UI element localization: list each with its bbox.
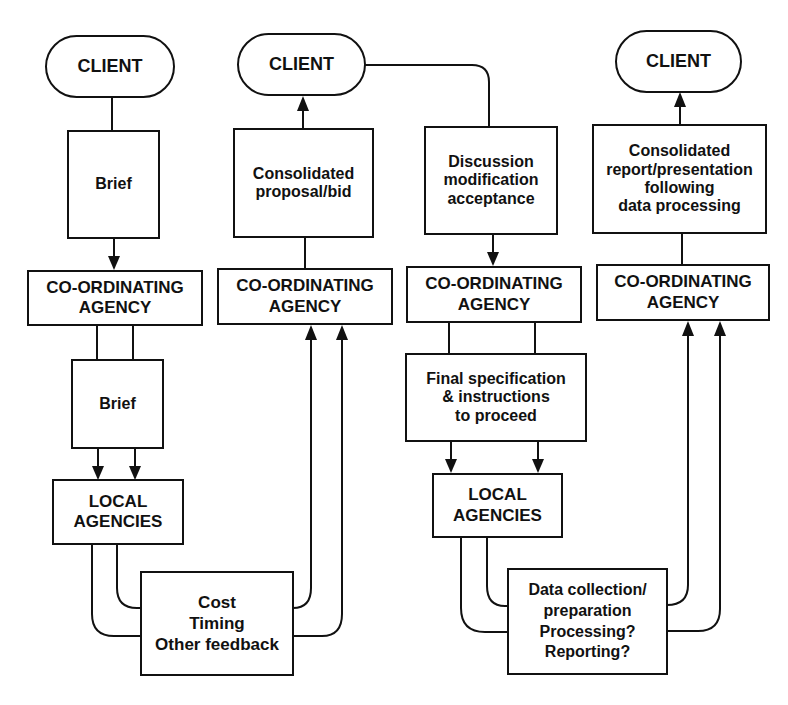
spec-label-line1: Final specification [426,370,566,388]
data-label-line1: Data collection/ [528,580,646,601]
report-label-line2: report/presentation [606,161,753,179]
coordinating-agency-4: CO-ORDINATING AGENCY [596,264,770,321]
brief-box-1: Brief [67,130,160,239]
report-label-line3: following [644,179,714,197]
client-label: CLIENT [646,51,711,72]
report-label-line1: Consolidated [629,142,730,160]
arrow-down-icon [108,256,120,270]
discussion-label-line3: acceptance [447,190,534,208]
report-label-line4: data processing [618,197,741,215]
feedback-box: Cost Timing Other feedback [140,571,294,676]
local-label-line1: LOCAL [89,492,148,512]
arrow-up-icon [714,321,726,336]
coordinator-label-line2: AGENCY [647,293,720,313]
local-label-line2: AGENCIES [74,512,163,532]
arrow-up-icon [674,92,686,107]
coordinator-label-line1: CO-ORDINATING [614,272,752,292]
feedback-timing: Timing [189,613,244,634]
data-collection-box: Data collection/ preparation Processing?… [507,568,668,675]
coordinating-agency-2: CO-ORDINATING AGENCY [217,268,393,325]
coordinating-agency-3: CO-ORDINATING AGENCY [406,266,582,323]
data-label-line2: preparation [543,601,631,622]
arrow-up-icon [682,321,694,336]
spec-label-line2: & instructions [442,388,550,406]
coordinator-label-line1: CO-ORDINATING [46,278,184,298]
data-label-line3: Processing? [539,622,635,643]
discussion-label-line1: Discussion [448,153,533,171]
data-label-line4: Reporting? [545,642,630,663]
discussion-label-line2: modification [443,171,538,189]
brief-box-2: Brief [71,359,164,449]
local-agencies-1: LOCAL AGENCIES [52,479,184,545]
arrow-down-icon [129,466,141,480]
arrow-up-icon [297,96,309,111]
local-agencies-2: LOCAL AGENCIES [432,473,563,538]
connector-lines [0,0,788,705]
client-label: CLIENT [269,54,334,75]
feedback-cost: Cost [198,592,236,613]
coordinator-label-line1: CO-ORDINATING [425,274,563,294]
arrow-down-icon [532,459,544,473]
client-label: CLIENT [78,56,143,77]
client-node-2: CLIENT [237,33,366,96]
local-label-line2: AGENCIES [453,506,542,526]
arrow-down-icon [445,459,457,473]
brief-label: Brief [95,175,131,193]
coordinating-agency-1: CO-ORDINATING AGENCY [27,270,203,326]
client-node-3: CLIENT [615,30,742,93]
client-node-1: CLIENT [45,35,175,98]
proposal-label-line2: proposal/bid [256,183,352,201]
consolidated-report-box: Consolidated report/presentation followi… [592,124,767,234]
arrow-up-icon [336,325,348,340]
feedback-other: Other feedback [155,634,279,655]
coordinator-label-line2: AGENCY [79,298,152,318]
arrow-down-icon [92,466,104,480]
arrow-down-icon [487,252,499,266]
brief-label: Brief [99,395,135,413]
consolidated-proposal-box: Consolidated proposal/bid [233,128,374,238]
spec-label-line3: to proceed [455,407,537,425]
local-label-line1: LOCAL [468,485,527,505]
arrow-up-icon [305,325,317,340]
discussion-box: Discussion modification acceptance [424,126,558,235]
final-specification-box: Final specification & instructions to pr… [405,353,587,442]
coordinator-label-line2: AGENCY [269,297,342,317]
coordinator-label-line1: CO-ORDINATING [236,276,374,296]
proposal-label-line1: Consolidated [253,165,354,183]
coordinator-label-line2: AGENCY [458,295,531,315]
